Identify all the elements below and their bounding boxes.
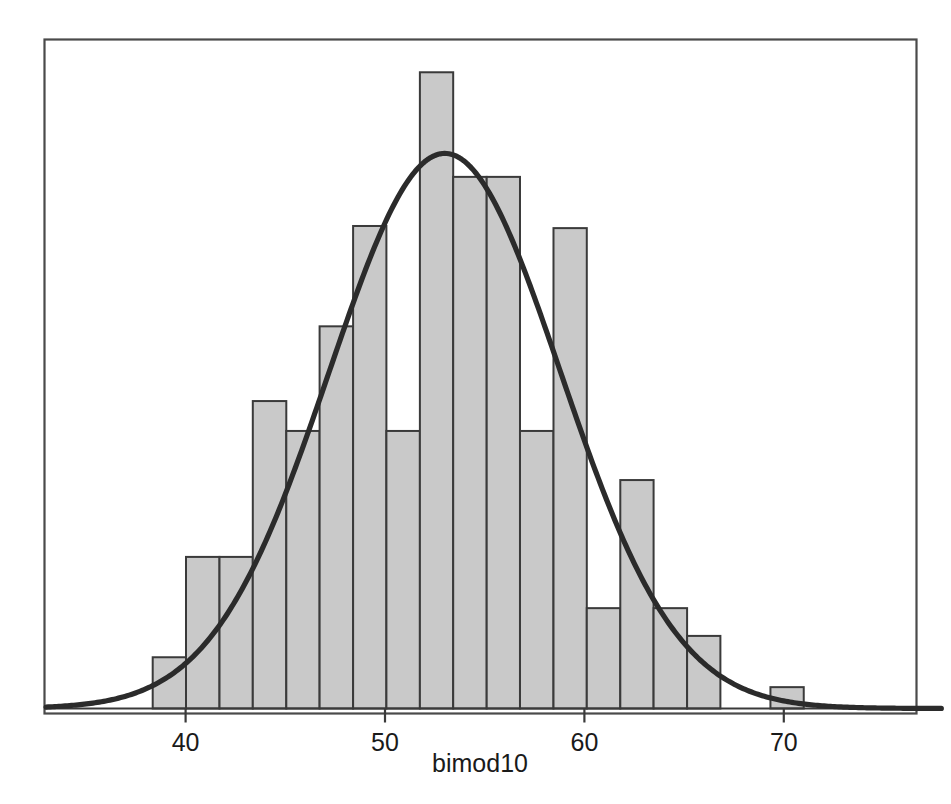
histogram-bar	[520, 431, 554, 709]
histogram-bar	[386, 431, 420, 709]
x-axis-tick-label: 50	[371, 728, 399, 756]
x-axis-tick-label: 40	[172, 728, 200, 756]
chart-canvas: 40506070 bimod10	[0, 0, 951, 804]
histogram-bar	[420, 72, 453, 708]
x-axis-title: bimod10	[432, 749, 528, 777]
histogram-plot: 40506070 bimod10	[0, 0, 951, 804]
histogram-bar	[353, 226, 386, 709]
x-axis-tick-label: 70	[770, 728, 798, 756]
x-axis-tick-label: 60	[570, 728, 598, 756]
histogram-bar	[587, 608, 621, 708]
histogram-bar	[487, 177, 520, 709]
histogram-bar	[553, 228, 586, 708]
histogram-bar	[453, 177, 487, 709]
